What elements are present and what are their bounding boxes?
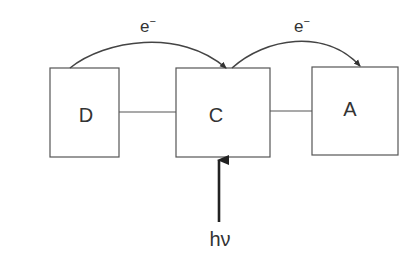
electron-label-2: e− <box>294 15 310 36</box>
photon-label: hν <box>209 228 230 250</box>
node-donor: D <box>50 68 119 157</box>
electron-transfer-arrow-c-to-a <box>232 41 360 68</box>
node-donor-label: D <box>79 104 93 126</box>
node-acceptor-label: A <box>343 98 357 120</box>
node-chromophore-label: C <box>209 104 223 126</box>
node-chromophore: C <box>176 68 270 157</box>
electron-transfer-arrow-d-to-c <box>70 42 226 68</box>
electron-label-1: e− <box>140 15 156 36</box>
node-acceptor: A <box>312 67 398 155</box>
donor-chromophore-acceptor-diagram: D C A e− e− hν <box>0 0 420 256</box>
